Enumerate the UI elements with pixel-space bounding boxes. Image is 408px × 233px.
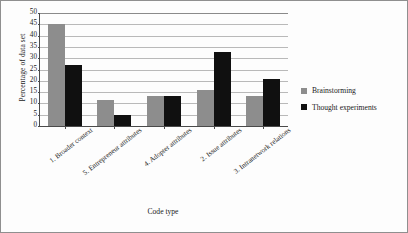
bar [97, 100, 114, 126]
bar-groups [40, 13, 288, 126]
bar-chart-figure: Percentage of data set 05101520253035404… [0, 0, 408, 233]
y-axis-tick-label: 15 [30, 88, 37, 95]
legend-item: Thought experiments [301, 104, 377, 112]
bar-group [238, 13, 288, 126]
plot-area: 05101520253035404550 [39, 13, 288, 127]
x-axis-category-label: 2. Issue attributes [199, 127, 243, 163]
y-axis-tick-label: 0 [33, 122, 37, 129]
bar [197, 90, 214, 126]
x-axis-category-labels: 1. Broader context5. Entrepreneur attrib… [39, 127, 287, 203]
bar [214, 52, 231, 126]
bar-group [189, 13, 239, 126]
x-axis-category-label: 1. Broader context [48, 127, 94, 165]
legend-item: Brainstorming [301, 87, 377, 95]
chart-legend: BrainstormingThought experiments [301, 87, 377, 111]
x-axis-category-label: 3. Intranetwork relations [233, 127, 292, 176]
y-axis-tick-label: 5 [33, 111, 37, 118]
bar [48, 24, 65, 126]
legend-swatch-icon [301, 104, 307, 110]
bar [65, 65, 82, 126]
y-axis-tick-label: 45 [30, 21, 37, 28]
y-axis-tick-label: 25 [30, 66, 37, 73]
bar [114, 115, 131, 126]
bar-group [40, 13, 90, 126]
legend-swatch-icon [301, 88, 307, 94]
bar [147, 96, 164, 126]
bar [164, 96, 181, 126]
y-axis-tick-label: 10 [30, 100, 37, 107]
bar-group [139, 13, 189, 126]
legend-label: Thought experiments [312, 104, 377, 112]
bar [246, 96, 263, 126]
legend-label: Brainstorming [312, 87, 356, 95]
y-axis-tick-label: 20 [30, 77, 37, 84]
bar-group [90, 13, 140, 126]
x-axis-category-label: 4. Adopter attributes [143, 127, 193, 168]
y-axis-tick-label: 40 [30, 32, 37, 39]
bar [263, 79, 280, 126]
x-axis-title: Code type [39, 207, 287, 216]
y-axis-tick-label: 50 [30, 9, 37, 16]
y-axis-title: Percentage of data set [18, 3, 27, 133]
y-axis-tick-label: 30 [30, 55, 37, 62]
y-axis-tick-label: 35 [30, 43, 37, 50]
